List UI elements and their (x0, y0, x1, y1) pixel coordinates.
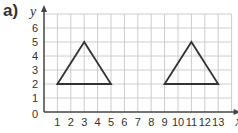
y-tick-label: 4 (32, 50, 38, 62)
x-tick-label: 2 (68, 116, 74, 128)
x-tick-label: 1 (54, 116, 60, 128)
x-tick-label: 8 (148, 116, 154, 128)
y-tick-label: 1 (32, 92, 38, 104)
y-tick-label: 2 (32, 78, 38, 90)
x-tick-label: 11 (186, 116, 197, 128)
x-tick-label: 13 (212, 116, 224, 128)
x-tick-label: 9 (162, 116, 168, 128)
y-tick-label: 6 (32, 22, 38, 34)
origin-label: 0 (32, 108, 38, 120)
x-tick-label: 3 (81, 116, 87, 128)
x-tick-label: 4 (95, 116, 101, 128)
y-axis-label: y (28, 4, 37, 19)
x-tick-label: 5 (108, 116, 114, 128)
x-tick-label: 12 (199, 116, 211, 128)
x-axis-label: x (235, 114, 238, 129)
y-tick-label: 5 (32, 36, 38, 48)
x-tick-label: 7 (135, 116, 141, 128)
x-tick-label: 6 (121, 116, 127, 128)
coordinate-grid-chart: 123456789101112131234560xy (0, 0, 238, 133)
x-tick-label: 10 (172, 116, 184, 128)
y-axis-arrow-icon (41, 5, 47, 12)
y-tick-label: 3 (32, 64, 38, 76)
